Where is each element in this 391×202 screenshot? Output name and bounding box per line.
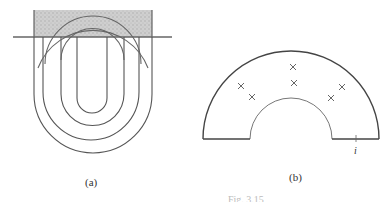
cross-icon: [339, 84, 345, 90]
field-loop-4: [34, 37, 152, 153]
figure-caption: Fig. 3.15: [228, 194, 264, 202]
tick-label: i: [354, 145, 357, 156]
panel-a-label: (a): [85, 176, 97, 188]
field-loop-3: [43, 37, 139, 140]
cross-icon: [249, 94, 255, 100]
cross-icon: [290, 64, 296, 70]
panel-a: [13, 10, 172, 153]
field-loop-1: [77, 37, 107, 113]
inner-semicircle: [250, 98, 332, 139]
figure-canvas: [0, 0, 391, 202]
panel-b-label: (b): [289, 171, 302, 183]
cross-icon: [291, 80, 297, 86]
cross-icon: [238, 83, 244, 89]
cross-markers: [238, 64, 345, 101]
panel-b: [203, 51, 379, 142]
outer-semicircle: [203, 51, 379, 139]
cross-icon: [328, 95, 334, 101]
field-loop-2: [61, 37, 124, 126]
shaded-conductor-region: [34, 10, 152, 37]
